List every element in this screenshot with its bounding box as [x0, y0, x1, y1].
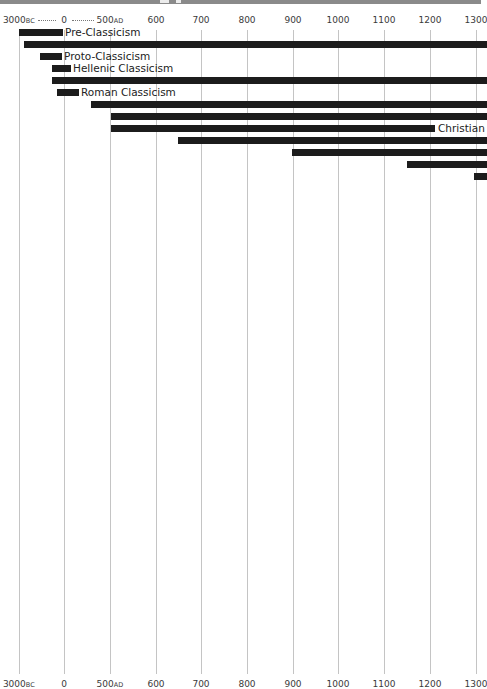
axis-tick-label-top: 1100 — [373, 15, 396, 25]
axis-tick-label-top: 3000BC — [3, 15, 35, 25]
axis-tick-label-top: 700 — [192, 15, 209, 25]
timeline-bar — [24, 41, 487, 48]
timeline-bar — [407, 161, 487, 168]
bar-label: Pre-Classicism — [65, 26, 140, 38]
axis-tick-label-top: 1000 — [327, 15, 350, 25]
axis-tick-label-top: 600 — [147, 15, 164, 25]
axis-tick-label-bottom: 600 — [147, 679, 164, 689]
axis-dotted-separator — [38, 20, 56, 21]
gridline — [64, 30, 65, 674]
timeline-bar — [178, 137, 487, 144]
timeline-bar — [57, 89, 79, 96]
axis-tick-label-bottom: 1300 — [465, 679, 487, 689]
timeline-bar — [52, 65, 71, 72]
timeline-bar — [91, 101, 487, 108]
timeline-bar — [292, 149, 487, 156]
axis-tick-label-top: 800 — [238, 15, 255, 25]
timeline-bar — [474, 173, 487, 180]
axis-tick-label-bottom: 800 — [238, 679, 255, 689]
axis-tick-label-bottom: 0 — [61, 679, 67, 689]
timeline-bar — [111, 125, 435, 132]
axis-tick-label-bottom: 3000BC — [3, 679, 35, 689]
bar-label: Hellenic Classicism — [73, 62, 173, 74]
axis-tick-label-top: 1200 — [419, 15, 442, 25]
axis-dotted-separator — [72, 20, 94, 21]
axis-tick-label-top: 1300 — [465, 15, 487, 25]
timeline-bar — [52, 77, 487, 84]
axis-tick-label-bottom: 1100 — [373, 679, 396, 689]
header-glyph-fragment — [176, 0, 181, 3]
bar-label: Christian — [438, 122, 485, 134]
top-header-band — [0, 0, 481, 4]
header-glyph-fragment — [160, 0, 169, 3]
axis-tick-label-bottom: 700 — [192, 679, 209, 689]
timeline-bar — [40, 53, 62, 60]
axis-tick-label-bottom: 1200 — [419, 679, 442, 689]
axis-tick-label-top: 500AD — [96, 15, 123, 25]
bar-label: Proto-Classicism — [64, 50, 150, 62]
timeline-bar — [111, 113, 487, 120]
axis-tick-label-bottom: 500AD — [96, 679, 123, 689]
axis-tick-label-bottom: 900 — [284, 679, 301, 689]
axis-tick-label-top: 0 — [61, 15, 67, 25]
axis-tick-label-bottom: 1000 — [327, 679, 350, 689]
bar-label: Roman Classicism — [81, 86, 176, 98]
timeline-bar — [19, 29, 63, 36]
gridline — [19, 30, 20, 674]
axis-tick-label-top: 900 — [284, 15, 301, 25]
